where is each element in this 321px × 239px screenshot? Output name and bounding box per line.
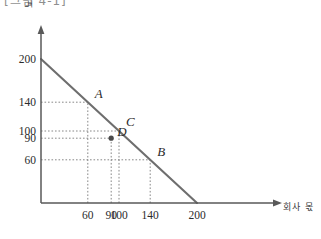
x-tick-label-60: 60 [82,209,94,221]
y-axis-arrowhead-icon [38,25,45,34]
y-tick-label-100: 100 [19,125,36,137]
x-tick-label-200: 200 [188,209,205,221]
y-axis-label: 노조 몫 [22,0,35,8]
point-label-D: D [117,124,126,140]
point-label-C: C [126,114,135,130]
y-tick-label-140: 140 [19,96,36,108]
x-tick-label-100: 100 [110,209,127,221]
data-point-marker-D[interactable] [109,136,114,141]
bargaining-frontier-chart [0,0,321,239]
point-label-A: A [95,86,103,102]
x-tick-label-140: 140 [142,209,159,221]
x-axis-label: 회사 몫 [283,200,314,213]
y-tick-label-60: 60 [25,154,37,166]
chart-page: [그림 4-1] 노조 몫 회사 몫 609010014020060901001… [0,0,321,239]
point-label-B: B [157,144,165,160]
x-axis-arrowhead-icon [273,200,282,207]
y-tick-label-200: 200 [19,53,36,65]
